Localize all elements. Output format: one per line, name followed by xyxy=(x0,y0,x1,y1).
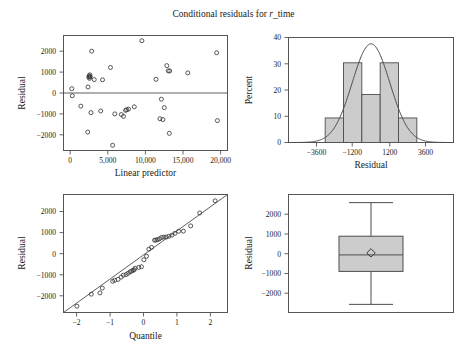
scatter-ytick-1000: 1000 xyxy=(41,68,56,77)
qq-point xyxy=(189,224,193,228)
qq-reference-line xyxy=(64,195,228,313)
scatter-y-axis: 2000 1000 0 −1000 −2000 xyxy=(37,47,64,140)
scatter-ytick-neg1000: −1000 xyxy=(37,110,57,119)
scatter-point xyxy=(113,112,117,116)
boxplot-box xyxy=(339,236,403,271)
scatter-xtick-15000: 15,000 xyxy=(173,156,194,165)
scatter-point xyxy=(165,64,169,68)
scatter-xtick-10000: 10,000 xyxy=(135,156,156,165)
boxplot-ytick-0: 0 xyxy=(277,250,281,259)
histogram-bars xyxy=(325,63,417,143)
figure-canvas: Conditional residuals for r_time 2000 10… xyxy=(0,0,467,357)
boxplot-y-axis: 2000 1000 0 −1000 −2000 xyxy=(262,210,289,298)
histogram-bar xyxy=(399,118,417,143)
scatter-xtick-20000: 20,000 xyxy=(210,156,231,165)
histogram-y-axis-label: Percent xyxy=(244,75,254,104)
scatter-point xyxy=(167,131,171,135)
qq-x-axis: −2 −1 0 1 2 xyxy=(73,313,213,328)
scatter-point xyxy=(162,106,166,110)
qq-xtick-1: 1 xyxy=(175,318,179,327)
scatter-point xyxy=(89,111,93,115)
histogram-xtick-1200: 1200 xyxy=(382,148,397,157)
scatter-ytick-0: 0 xyxy=(52,89,56,98)
scatter-point xyxy=(154,77,158,81)
panel-boxplot-residual: 2000 1000 0 −1000 −2000 Residual xyxy=(244,195,454,313)
panel-histogram-residual: 40 30 20 10 0 Percent −3600 −1200 1200 3… xyxy=(244,33,454,170)
scatter-point xyxy=(215,51,219,55)
scatter-point xyxy=(111,143,115,147)
histogram-bar xyxy=(362,94,380,142)
histogram-x-axis-label: Residual xyxy=(354,160,388,170)
scatter-point xyxy=(90,49,94,53)
qq-ytick-2000: 2000 xyxy=(41,207,56,216)
qq-ytick-0: 0 xyxy=(52,250,56,259)
histogram-x-axis: −3600 −1200 1200 3600 xyxy=(307,143,434,158)
qq-y-axis-label: Residual xyxy=(17,236,27,270)
qq-point xyxy=(139,265,143,269)
scatter-point xyxy=(186,71,190,75)
histogram-ytick-0: 0 xyxy=(277,138,281,147)
qq-point xyxy=(181,229,185,233)
scatter-point xyxy=(108,65,112,69)
qq-point xyxy=(100,286,104,290)
histogram-y-axis: 40 30 20 10 0 xyxy=(273,33,288,147)
histogram-xtick-neg3600: −3600 xyxy=(307,148,327,157)
scatter-x-axis-label: Linear predictor xyxy=(115,168,177,178)
qq-ytick-neg2000: −2000 xyxy=(37,292,57,301)
qq-xtick-neg1: −1 xyxy=(106,318,114,327)
scatter-xtick-5000: 5,000 xyxy=(99,156,116,165)
scatter-point xyxy=(92,78,96,82)
histogram-bar xyxy=(325,118,343,143)
scatter-x-axis: 0 5,000 10,000 15,000 20,000 xyxy=(68,151,231,166)
figure-title-prefix: Conditional residuals for xyxy=(172,9,269,19)
scatter-point xyxy=(159,97,163,101)
histogram-ytick-30: 30 xyxy=(273,60,281,69)
qq-y-axis: 2000 1000 0 −1000 −2000 xyxy=(37,207,64,300)
qq-point xyxy=(142,258,146,262)
figure-title-suffix: _time xyxy=(272,9,295,19)
qq-point xyxy=(145,254,149,258)
boxplot-ytick-neg2000: −2000 xyxy=(262,289,282,298)
qq-xtick-0: 0 xyxy=(142,318,146,327)
scatter-point xyxy=(215,119,219,123)
boxplot-box-and-whiskers xyxy=(339,203,403,305)
scatter-ytick-2000: 2000 xyxy=(41,47,56,56)
scatter-point xyxy=(132,105,136,109)
scatter-y-axis-label: Residual xyxy=(17,76,27,110)
qq-xtick-2: 2 xyxy=(209,318,213,327)
qq-point xyxy=(213,199,217,203)
boxplot-ytick-2000: 2000 xyxy=(266,210,281,219)
histogram-bar xyxy=(344,63,362,143)
panel-scatter-residual-vs-predictor: 2000 1000 0 −1000 −2000 Residual 0 5,000… xyxy=(17,36,231,179)
histogram-ytick-40: 40 xyxy=(273,33,281,42)
scatter-point xyxy=(140,39,144,43)
scatter-point xyxy=(79,104,83,108)
scatter-ytick-neg2000: −2000 xyxy=(37,131,57,140)
histogram-ytick-10: 10 xyxy=(273,112,281,121)
qq-ytick-1000: 1000 xyxy=(41,228,56,237)
panel-qq-plot: 2000 1000 0 −1000 −2000 Residual −2 −1 0… xyxy=(17,195,228,342)
scatter-point xyxy=(86,130,90,134)
histogram-ytick-20: 20 xyxy=(273,86,281,95)
qq-point xyxy=(98,291,102,295)
scatter-point xyxy=(70,94,74,98)
histogram-bar xyxy=(380,63,398,143)
residual-diagnostics-figure: Conditional residuals for r_time 2000 10… xyxy=(0,0,467,357)
scatter-point xyxy=(99,109,103,113)
histogram-xtick-3600: 3600 xyxy=(418,148,433,157)
qq-xtick-neg2: −2 xyxy=(73,318,81,327)
scatter-point xyxy=(70,87,74,91)
figure-title: Conditional residuals for r_time xyxy=(172,9,294,19)
histogram-xtick-neg1200: −1200 xyxy=(342,148,362,157)
qq-x-axis-label: Quantile xyxy=(129,331,162,341)
boxplot-ytick-neg1000: −1000 xyxy=(262,269,282,278)
scatter-point xyxy=(86,85,90,89)
qq-ytick-neg1000: −1000 xyxy=(37,271,57,280)
scatter-xtick-0: 0 xyxy=(68,156,72,165)
qq-point xyxy=(75,304,79,308)
scatter-point xyxy=(101,78,105,82)
boxplot-y-axis-label: Residual xyxy=(244,236,254,270)
boxplot-ytick-1000: 1000 xyxy=(266,230,281,239)
